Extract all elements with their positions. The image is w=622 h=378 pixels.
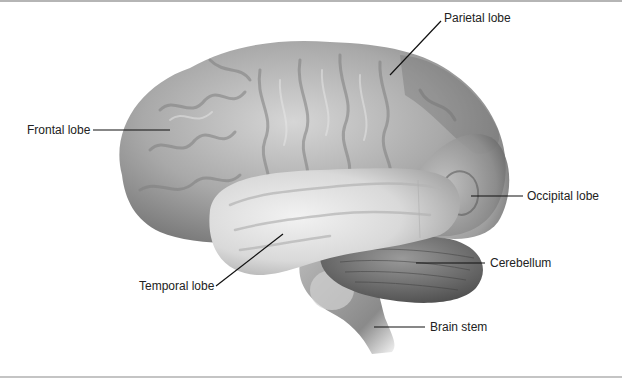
occipital-lobe-label: Occipital lobe <box>527 189 599 203</box>
brain-stem-label: Brain stem <box>430 320 487 334</box>
parietal-lobe-label: Parietal lobe <box>444 11 511 25</box>
cerebellum-label: Cerebellum <box>490 256 551 270</box>
frontal-lobe-label: Frontal lobe <box>27 123 90 137</box>
temporal-lobe-label: Temporal lobe <box>139 279 214 293</box>
